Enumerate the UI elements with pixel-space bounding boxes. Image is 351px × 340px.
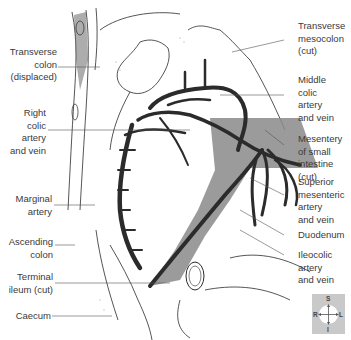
label-transverse-colon: Transverse colon (displaced): [4, 46, 57, 84]
orientation-compass: S I R L: [312, 294, 345, 334]
label-marginal-artery: Marginal artery: [4, 193, 52, 218]
label-transverse-mesocolon: Transverse mesocolon (cut): [298, 20, 351, 58]
colon-hatching: [74, 12, 88, 90]
label-ascending-colon: Ascending colon: [2, 236, 53, 261]
label-terminal-ileum: Terminal ileum (cut): [2, 271, 53, 296]
label-middle-colic-artery-vein: Middle colic artery and vein: [298, 74, 351, 124]
compass-left: L: [339, 311, 343, 318]
label-caecum: Caecum: [2, 310, 51, 323]
label-ileocolic-artery-vein: Ileocolic artery and vein: [298, 249, 351, 287]
mesentery-grey: [150, 118, 318, 286]
compass-right: R: [313, 311, 318, 318]
label-superior-mesenteric-artery-vein: Superior mesenteric artery and vein: [298, 176, 351, 226]
compass-inferior: I: [327, 326, 329, 333]
vessel-network: [118, 60, 300, 286]
compass-superior: S: [326, 295, 330, 302]
label-right-colic-artery-vein: Right colic artery and vein: [4, 107, 46, 157]
label-duodenum: Duodenum: [298, 229, 351, 242]
